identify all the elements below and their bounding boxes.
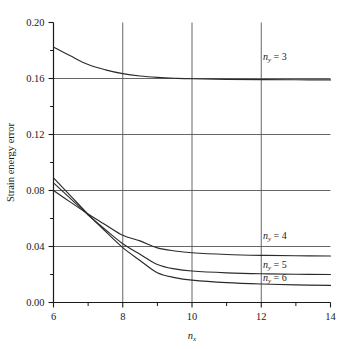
- x-tick-label: 12: [256, 311, 267, 322]
- y-tick-label: 0.00: [26, 297, 44, 308]
- y-tick-label: 0.16: [26, 73, 44, 84]
- y-axis-title: Strain energy error: [5, 122, 16, 202]
- x-tick-label: 10: [187, 311, 198, 322]
- x-tick-label: 8: [120, 311, 125, 322]
- x-tick-label: 14: [325, 311, 336, 322]
- chart-background: [0, 0, 342, 349]
- strain-energy-error-line-chart: 0.000.040.080.120.160.2068101214 ny = 3n…: [0, 0, 342, 349]
- chart-figure: 0.000.040.080.120.160.2068101214 ny = 3n…: [0, 0, 342, 349]
- y-tick-label: 0.20: [26, 17, 44, 28]
- y-tick-label: 0.04: [26, 241, 45, 252]
- y-tick-label: 0.12: [26, 129, 44, 140]
- y-tick-label: 0.08: [26, 185, 44, 196]
- x-tick-label: 6: [51, 311, 56, 322]
